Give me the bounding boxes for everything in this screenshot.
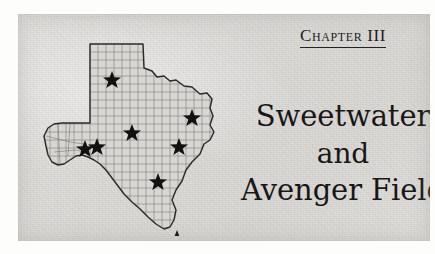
star-southtip [168, 230, 186, 236]
scanned-page-panel: Chapter III Sweetwater and Avenger Field [18, 14, 430, 241]
chapter-number-label: Chapter III [300, 26, 386, 48]
chapter-title: Sweetwater and Avenger Field [236, 98, 430, 210]
chapter-title-line-1: Sweetwater [236, 98, 430, 136]
texas-map [24, 24, 236, 236]
texas-map-svg [24, 24, 236, 236]
chapter-opening-page: Chapter III Sweetwater and Avenger Field [0, 0, 435, 254]
chapter-heading: Chapter III [240, 26, 430, 48]
chapter-title-line-3: Avenger Field [236, 172, 430, 210]
chapter-title-line-2: and [236, 136, 430, 172]
